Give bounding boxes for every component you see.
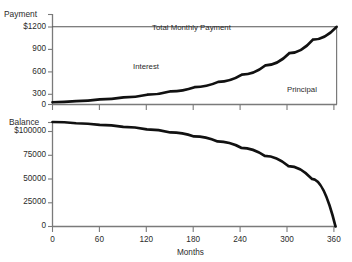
balance-ytick-0: 0: [0, 222, 46, 230]
payment-x-ticks: [53, 105, 334, 111]
payment-ytick-900: 900: [0, 45, 46, 53]
xtick-0: 0: [43, 236, 63, 244]
payment-y-ticks: [48, 15, 53, 105]
balance-y-ticks: [48, 123, 53, 227]
balance-x-ticks: [53, 227, 334, 233]
amortization-figure: Payment $1200 900 600 300 0 Total Monthl…: [0, 0, 352, 262]
months-axis-title: Months: [177, 249, 204, 257]
balance-path: [53, 122, 336, 227]
payment-ytick-300: 300: [0, 90, 46, 98]
interest-label: Interest: [133, 63, 159, 71]
payment-ytick-1200: $1200: [0, 23, 46, 31]
principal-label: Principal: [287, 86, 317, 94]
balance-ytick-50000: 50000: [0, 175, 46, 183]
xtick-120: 120: [135, 236, 157, 244]
chart-canvas: [0, 0, 352, 262]
balance-ytick-75000: 75000: [0, 151, 46, 159]
total-monthly-payment-label: Total Monthly Payment: [152, 24, 231, 32]
balance-ytick-25000: 25000: [0, 198, 46, 206]
payment-ytick-0: 0: [0, 101, 46, 109]
balance-ytick-100000: $100000: [0, 127, 46, 135]
xtick-60: 60: [89, 236, 109, 244]
xtick-240: 240: [229, 236, 251, 244]
payment-axis-title: Payment: [4, 10, 37, 18]
xtick-300: 300: [276, 236, 298, 244]
balance-panel: [48, 122, 337, 232]
xtick-360: 360: [323, 236, 345, 244]
xtick-180: 180: [182, 236, 204, 244]
payment-ytick-600: 600: [0, 68, 46, 76]
